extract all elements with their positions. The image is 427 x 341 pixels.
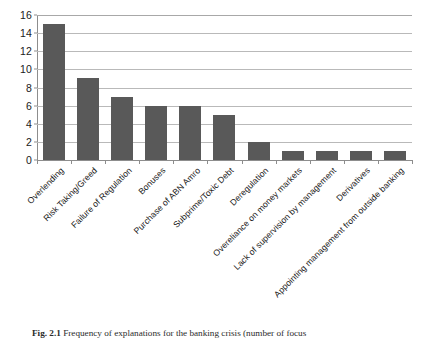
bar[interactable] xyxy=(384,151,406,160)
figure-container: 0246810121416 OverlendingRisk Taking/Gre… xyxy=(0,0,427,341)
bar-slot xyxy=(173,15,207,160)
bar[interactable] xyxy=(111,97,133,160)
x-tick-mark xyxy=(344,160,345,164)
bar[interactable] xyxy=(248,142,270,160)
y-tick-label: 8 xyxy=(26,82,32,94)
y-tick-label: 6 xyxy=(26,100,32,112)
x-tick-mark xyxy=(242,160,243,164)
y-tick-label: 2 xyxy=(26,136,32,148)
bar[interactable] xyxy=(316,151,338,160)
bar[interactable] xyxy=(350,151,372,160)
x-tick-mark xyxy=(173,160,174,164)
y-tick-label: 14 xyxy=(20,27,32,39)
bar-slot xyxy=(139,15,173,160)
y-tick-label: 4 xyxy=(26,118,32,130)
x-tick-mark xyxy=(378,160,379,164)
y-tick-label: 12 xyxy=(20,45,32,57)
bar-slot xyxy=(71,15,105,160)
bar-slot xyxy=(344,15,378,160)
bar[interactable] xyxy=(145,106,167,160)
bar-slot xyxy=(378,15,412,160)
x-axis-label: Appointing management from outside banki… xyxy=(273,166,406,299)
x-axis-label: Bonuses xyxy=(137,166,168,197)
caption-text: Frequency of explanations for the bankin… xyxy=(63,328,306,338)
bar-slot xyxy=(242,15,276,160)
x-axis-line xyxy=(37,160,412,161)
x-tick-mark xyxy=(412,160,413,164)
figure-number: Fig. 2.1 xyxy=(32,328,61,338)
bar[interactable] xyxy=(77,78,99,160)
y-tick-label: 0 xyxy=(26,154,32,166)
bar-slot xyxy=(207,15,241,160)
x-tick-mark xyxy=(105,160,106,164)
bar-slot xyxy=(276,15,310,160)
x-axis-label: Failure of Regulation xyxy=(70,166,134,230)
figure-caption: Fig. 2.1 Frequency of explanations for t… xyxy=(32,328,422,340)
bar[interactable] xyxy=(213,115,235,160)
bar[interactable] xyxy=(179,106,201,160)
x-axis-label: Subprime/Toxic Debt xyxy=(172,166,236,230)
y-tick-label: 16 xyxy=(20,9,32,21)
x-tick-mark xyxy=(310,160,311,164)
x-tick-mark xyxy=(276,160,277,164)
bar[interactable] xyxy=(282,151,304,160)
y-tick-label: 10 xyxy=(20,63,32,75)
bar-slot xyxy=(105,15,139,160)
x-tick-mark xyxy=(139,160,140,164)
x-tick-mark xyxy=(37,160,38,164)
x-tick-mark xyxy=(71,160,72,164)
bar-slot xyxy=(310,15,344,160)
x-tick-mark xyxy=(207,160,208,164)
bar-slot xyxy=(37,15,71,160)
bar[interactable] xyxy=(43,24,65,160)
bars-layer xyxy=(37,15,412,160)
